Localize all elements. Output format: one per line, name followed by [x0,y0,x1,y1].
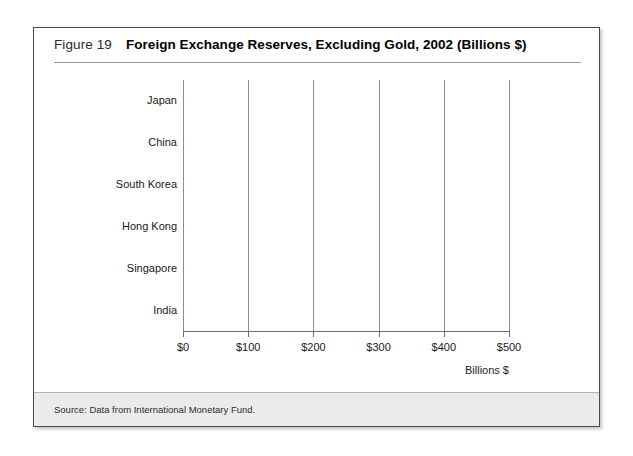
x-axis-tick [509,332,510,337]
figure-header-text: Figure 19Foreign Exchange Reserves, Excl… [54,35,527,53]
bar-row [183,86,473,117]
x-axis-title: Billions $ [465,364,509,376]
gridline [379,80,380,332]
bar-row [183,254,239,285]
gridline [183,80,184,332]
x-axis-tick [379,332,380,337]
x-axis-tick-label: $200 [301,341,325,353]
x-axis-tick [313,332,314,337]
plot-area [183,80,509,332]
category-label: India [37,304,177,316]
x-axis-tick [248,332,249,337]
category-label: South Korea [37,178,177,190]
x-axis-tick [444,332,445,337]
source-note: Source: Data from International Monetary… [54,404,255,415]
gridline [509,80,510,332]
x-axis-tick-label: $400 [432,341,456,353]
x-axis-tick-label: $0 [177,341,189,353]
x-axis-tick [183,332,184,337]
bar-row [183,212,256,243]
gridline [444,80,445,332]
bar-row [183,170,263,201]
figure-number-label: Figure 19 [54,37,112,52]
bar-row [183,128,370,159]
header-divider [54,62,581,63]
gridline [313,80,314,332]
figure-title: Foreign Exchange Reserves, Excluding Gol… [126,37,527,52]
x-axis-tick-label: $100 [236,341,260,353]
category-label: China [37,136,177,148]
category-label: Singapore [37,262,177,274]
bar-row [183,296,231,327]
gridline [248,80,249,332]
category-label: Hong Kong [37,220,177,232]
x-axis-tick-label: $300 [366,341,390,353]
y-axis-category-labels: JapanChinaSouth KoreaHong KongSingaporeI… [34,80,177,332]
figure-header: Figure 19Foreign Exchange Reserves, Excl… [34,28,599,64]
category-label: Japan [37,94,177,106]
x-axis-line [183,331,510,332]
x-axis-tick-label: $500 [497,341,521,353]
figure-panel: Figure 19Foreign Exchange Reserves, Excl… [33,27,600,427]
figure-footer: Source: Data from International Monetary… [34,392,599,426]
